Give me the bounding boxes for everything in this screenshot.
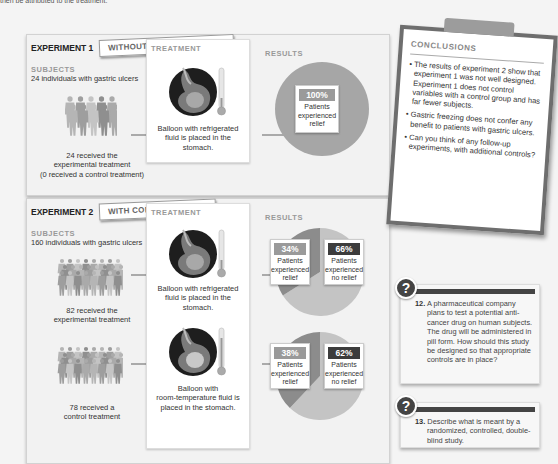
result-text-line: experienced: [325, 370, 363, 378]
person-head: [108, 271, 112, 275]
result-relief-box: 38% Patients experienced relief: [270, 343, 310, 389]
person-head: [60, 359, 64, 363]
person-head: [68, 359, 72, 363]
result-text-line: relief: [271, 274, 309, 282]
caption-line: 78 received a: [37, 403, 147, 412]
conclusion-item: Can you think of any follow-up experimen…: [403, 132, 540, 160]
person-head: [100, 347, 104, 351]
question-body: A pharmaceutical company plans to test a…: [427, 299, 532, 364]
person-head: [103, 353, 107, 357]
result-relief-box: 34% Patients experienced relief: [270, 239, 310, 285]
result-text-line: relief: [271, 378, 309, 386]
person-head: [88, 96, 93, 101]
caption-line: 24 received the: [27, 151, 157, 160]
person-head: [116, 347, 120, 351]
result-text-line: no relief: [325, 274, 363, 282]
person-head: [76, 359, 80, 363]
question-header-bar: [413, 289, 535, 294]
result-text-line: Patients: [271, 257, 309, 265]
result-text-line: Patients: [296, 103, 338, 111]
treatment-caption: Balloon with room-temperature fluid is p…: [147, 384, 249, 412]
result-percent: 62%: [328, 347, 360, 359]
thermometer-level: [221, 338, 223, 370]
experiment-2-panel: EXPERIMENT 2 WITH CONTROL GROUP SUBJECTS…: [26, 198, 390, 464]
results-heading: RESULTS: [265, 49, 303, 58]
question-card: ? 13. Describe what is meant by a random…: [400, 402, 540, 448]
balloon: [186, 352, 204, 368]
caption-line: Balloon with refrigerated: [147, 284, 249, 293]
person-head: [108, 347, 112, 351]
result-no-relief-box: 62% Patients experienced no relief: [324, 343, 364, 389]
result-text-line: experienced: [296, 112, 338, 120]
person-body: [58, 276, 66, 296]
person-head: [95, 265, 99, 269]
thermometer-bulb: [218, 367, 226, 375]
caption-line: (0 received a control treatment): [27, 170, 157, 179]
caption-line: fluid is placed in the: [147, 293, 249, 302]
question-mark-icon: ?: [395, 395, 417, 417]
person-head: [111, 353, 115, 357]
balloon: [186, 254, 204, 270]
question-text: 12. A pharmaceutical company plans to te…: [415, 299, 533, 365]
caption-line: experimental treatment: [27, 160, 157, 169]
person-head: [91, 104, 96, 109]
person-head: [84, 259, 88, 263]
person-head: [109, 96, 114, 101]
person-head: [119, 265, 123, 269]
thermometer-bulb: [218, 269, 226, 277]
treatment-heading: TREATMENT: [151, 208, 201, 217]
person-head: [100, 271, 104, 275]
question-number: 13.: [415, 417, 425, 426]
treatment-card: TREATMENT Balloon with refrigerated flui…: [146, 39, 250, 163]
person-head: [60, 347, 64, 351]
result-relief-box: 100% Patients experienced relief: [295, 85, 339, 133]
people-group-icon: [57, 345, 123, 395]
person-head: [116, 271, 120, 275]
result-text-line: Patients: [325, 257, 363, 265]
person-head: [103, 265, 107, 269]
result-text-line: experienced: [271, 370, 309, 378]
stomach-balloon-room-temp-icon: [167, 324, 231, 380]
person-head: [71, 265, 75, 269]
caption-line: experimental treatment: [37, 315, 147, 324]
treatment-caption: Balloon with refrigerated fluid is place…: [147, 124, 249, 152]
subjects-group-caption: 78 received a control treatment: [37, 403, 147, 422]
person-head: [84, 271, 88, 275]
person-head: [60, 271, 64, 275]
experiment-1-panel: EXPERIMENT 1 WITHOUT CONTROL GROUP SUBJE…: [26, 34, 390, 196]
person-head: [84, 347, 88, 351]
question-text: 13. Describe what is meant by a randomiz…: [415, 417, 533, 445]
caption-line: stomach.: [147, 143, 249, 152]
result-percent: 66%: [328, 243, 360, 255]
treatment-heading: TREATMENT: [151, 44, 201, 53]
person-head: [99, 96, 104, 101]
person-head: [71, 353, 75, 357]
person-head: [68, 259, 72, 263]
conclusion-item: The results of experiment 2 show that ex…: [407, 59, 546, 115]
caption-line: placed in the stomach.: [147, 403, 249, 412]
thermometer-bulb: [218, 107, 226, 115]
person-head: [81, 104, 86, 109]
person-head: [76, 347, 80, 351]
caption-line: stomach.: [147, 303, 249, 312]
subjects-group-caption: 24 received the experimental treatment (…: [27, 151, 157, 179]
person-head: [108, 359, 112, 363]
person-head: [119, 353, 123, 357]
person-head: [68, 271, 72, 275]
person-head: [100, 359, 104, 363]
person-head: [100, 259, 104, 263]
person-head: [67, 96, 72, 101]
person-head: [116, 259, 120, 263]
result-no-relief-box: 66% Patients experienced no relief: [324, 239, 364, 285]
person-head: [68, 347, 72, 351]
conclusions-list: The results of experiment 2 show that ex…: [403, 59, 545, 164]
result-text-line: experienced: [271, 266, 309, 274]
result-text-line: no relief: [325, 378, 363, 386]
result-text-line: Patients: [325, 361, 363, 369]
experiment-2-title: EXPERIMENT 2: [31, 207, 93, 217]
result-percent: 100%: [299, 89, 335, 101]
person-head: [102, 104, 107, 109]
person-head: [108, 259, 112, 263]
subjects-heading: SUBJECTS: [31, 229, 75, 238]
person-head: [111, 265, 115, 269]
